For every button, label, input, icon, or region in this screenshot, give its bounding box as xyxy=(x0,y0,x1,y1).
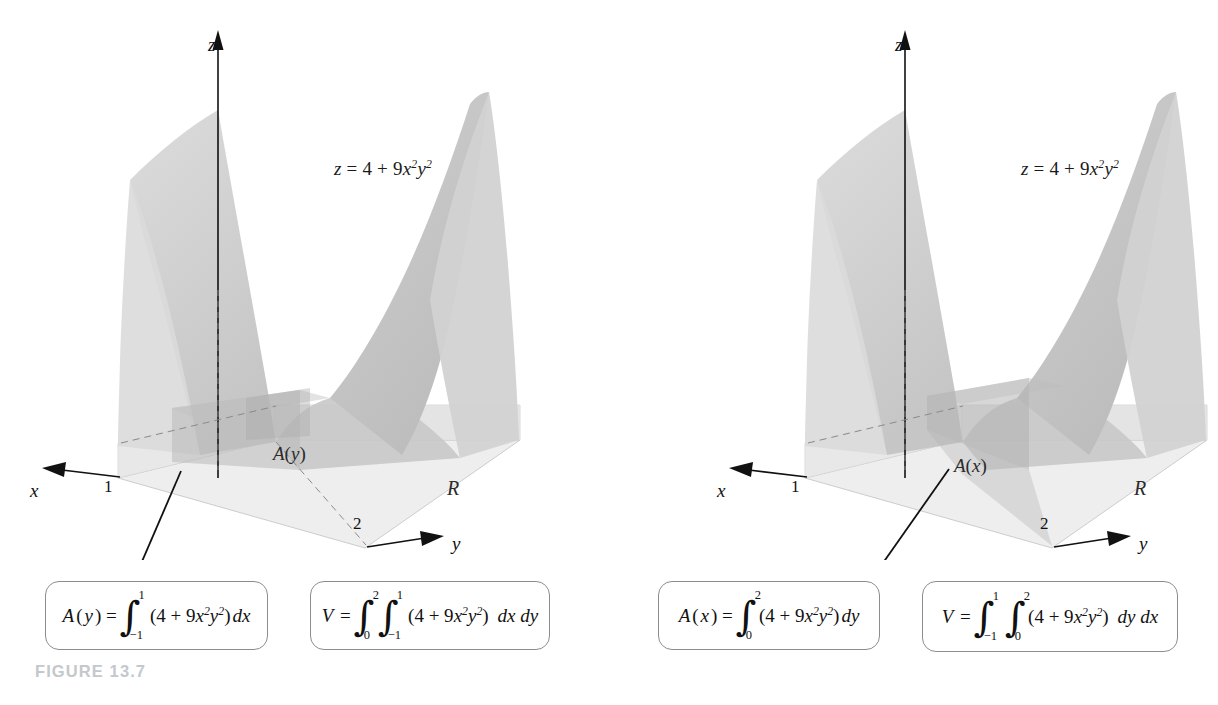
x-axis-line xyxy=(749,470,807,477)
surface-equation-label: z = 4 + 9x2y2 xyxy=(334,158,432,180)
integral-upper-limit: 2 xyxy=(755,589,761,602)
differential: dx xyxy=(232,606,250,625)
x-axis-tick-1: 1 xyxy=(791,477,800,497)
panel-right: z = 4 + 9x2y2 x y z 1 2 R A(x) A(x) = ∫ … xyxy=(609,0,1218,660)
x-axis-label: x xyxy=(30,480,38,502)
integrand: (4 + 9x2y2) xyxy=(408,606,489,625)
differential: dx dy xyxy=(498,606,539,625)
integral-symbol-inner: ∫ 2 0 xyxy=(1005,596,1025,638)
x-axis-tick-1: 1 xyxy=(104,477,113,497)
surface-equation-label: z = 4 + 9x2y2 xyxy=(1021,158,1119,180)
x-axis-arrowhead xyxy=(729,462,753,477)
cross-section-label-Ax: A(x) xyxy=(954,455,987,477)
integral-symbol-inner: ∫ 1 −1 xyxy=(378,595,405,637)
formula-volume-content: V = ∫ 1 −1 ∫ 2 0 (4 + 9x2y2)dy dx xyxy=(942,596,1158,638)
formula-box-area-Ay: A(y) = ∫ 1 −1 (4 + 9x2y2)dx xyxy=(45,581,268,650)
region-label-R: R xyxy=(1134,477,1146,500)
y-axis-tick-2: 2 xyxy=(1040,514,1049,534)
inner-integral-lower-limit: 0 xyxy=(1015,630,1021,643)
region-label-R: R xyxy=(447,477,459,500)
integrand: (4 + 9x2y2) xyxy=(759,606,840,625)
panel-left: z = 4 + 9x2y2 x y z 1 2 R A(y) A(y) = ∫ … xyxy=(0,0,609,660)
outer-integral-lower-limit: 0 xyxy=(364,629,370,642)
formula-box-volume: V = ∫ 2 0 ∫ 1 −1 (4 + 9x2y2)dx dy xyxy=(310,581,550,650)
integral-lower-limit: 0 xyxy=(746,629,752,642)
figure-caption: FIGURE 13.7 xyxy=(35,662,146,681)
integral-symbol: ∫ 2 0 xyxy=(736,595,756,637)
outer-integral-upper-limit: 2 xyxy=(373,589,379,602)
y-axis-label: y xyxy=(452,533,460,555)
outer-integral-lower-limit: −1 xyxy=(984,630,997,643)
z-axis-label: z xyxy=(208,34,215,56)
integral-upper-limit: 1 xyxy=(139,589,152,602)
x-axis-label: x xyxy=(717,480,725,502)
integral-symbol-outer: ∫ 2 0 xyxy=(354,595,374,637)
integrand: (4 + 9x2y2) xyxy=(150,606,231,625)
cross-section-label-Ay: A(y) xyxy=(273,443,306,465)
formula-box-area-Ax: A(x) = ∫ 2 0 (4 + 9x2y2)dy xyxy=(658,581,880,650)
formula-area-Ay-content: A(y) = ∫ 1 −1 (4 + 9x2y2)dx xyxy=(63,595,251,637)
differential: dy dx xyxy=(1118,607,1159,626)
inner-integral-lower-limit: −1 xyxy=(388,629,401,642)
formula-volume-content: V = ∫ 2 0 ∫ 1 −1 (4 + 9x2y2)dx dy xyxy=(322,595,538,637)
formula-area-Ax-content: A(x) = ∫ 2 0 (4 + 9x2y2)dy xyxy=(679,595,860,637)
surface-right-skirt xyxy=(430,92,519,458)
formula-box-volume: V = ∫ 1 −1 ∫ 2 0 (4 + 9x2y2)dy dx xyxy=(922,581,1178,652)
y-axis-arrowhead xyxy=(1107,531,1131,546)
integral-symbol-outer: ∫ 1 −1 xyxy=(974,596,1001,638)
z-axis-label: z xyxy=(895,34,902,56)
integral-symbol: ∫ 1 −1 xyxy=(120,595,147,637)
y-axis-label: y xyxy=(1139,533,1147,555)
right-surface-graphic xyxy=(609,0,1218,660)
y-axis-arrowhead xyxy=(420,531,444,546)
inner-integral-upper-limit: 1 xyxy=(397,589,410,602)
outer-integral-upper-limit: 1 xyxy=(993,590,1006,603)
figure-page: z = 4 + 9x2y2 x y z 1 2 R A(y) A(y) = ∫ … xyxy=(0,0,1218,705)
surface-right-skirt xyxy=(1117,92,1206,458)
x-axis-line xyxy=(62,470,120,477)
inner-integral-upper-limit: 2 xyxy=(1024,590,1030,603)
differential: dy xyxy=(841,606,859,625)
integrand: (4 + 9x2y2) xyxy=(1028,607,1109,626)
x-axis-arrowhead xyxy=(42,462,66,477)
y-axis-tick-2: 2 xyxy=(353,514,362,534)
left-surface-graphic xyxy=(0,0,609,660)
integral-lower-limit: −1 xyxy=(130,629,143,642)
